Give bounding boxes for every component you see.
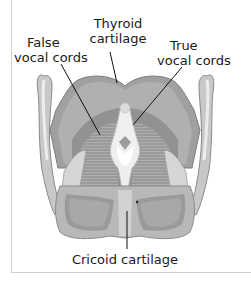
- label-false-line1: False: [14, 35, 94, 50]
- label-thyroid-cartilage: Thyroid cartilage: [88, 16, 148, 46]
- label-true-line1: True: [157, 38, 237, 53]
- label-false-line2: vocal cords: [14, 50, 94, 65]
- label-cricoid-cartilage: Cricoid cartilage: [60, 252, 190, 267]
- label-true-line2: vocal cords: [157, 53, 237, 68]
- cricoid-cartilage-shape: [56, 186, 195, 239]
- label-true-vocal-cords: True vocal cords: [157, 38, 237, 68]
- label-thyroid-line1: Thyroid: [88, 16, 148, 31]
- label-thyroid-line2: cartilage: [88, 31, 148, 46]
- label-false-vocal-cords: False vocal cords: [14, 35, 94, 65]
